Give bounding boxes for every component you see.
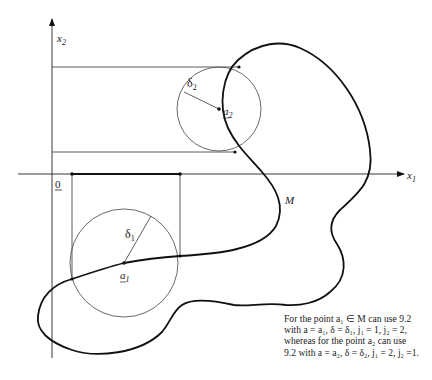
caption-line: 9.2 with a = a₂, δ = δ₂, j₁ = 2, j₂ =1. <box>284 347 432 358</box>
point-a2 <box>217 107 221 111</box>
intersection-dot <box>178 254 181 257</box>
caption-line: For the point a₁ ∈ M can use 9.2 <box>284 313 432 324</box>
origin-label: 0 <box>55 178 61 190</box>
radius-delta2 <box>184 92 219 109</box>
segment-endpoint-right <box>178 172 182 176</box>
x-axis-label: x1 <box>406 169 416 184</box>
figure-caption: For the point a₁ ∈ M can use 9.2 with a … <box>284 313 432 358</box>
intersection-dot <box>70 277 73 280</box>
point-a1 <box>122 261 126 265</box>
intersection-dot <box>233 150 236 153</box>
set-M-label: M <box>284 194 295 206</box>
caption-line: with a = a₁, δ = δ₁, j₁ = 1, j₂ = 2, <box>284 324 432 335</box>
delta2-label: δ2 <box>187 76 197 92</box>
set-M-boundary <box>38 44 371 354</box>
segment-endpoint-left <box>70 172 74 176</box>
intersection-dot <box>237 65 240 68</box>
y-axis-label: x2 <box>56 32 66 47</box>
delta1-label: δ1 <box>125 227 135 243</box>
caption-line: whereas for the point a₂ can use <box>284 335 432 346</box>
